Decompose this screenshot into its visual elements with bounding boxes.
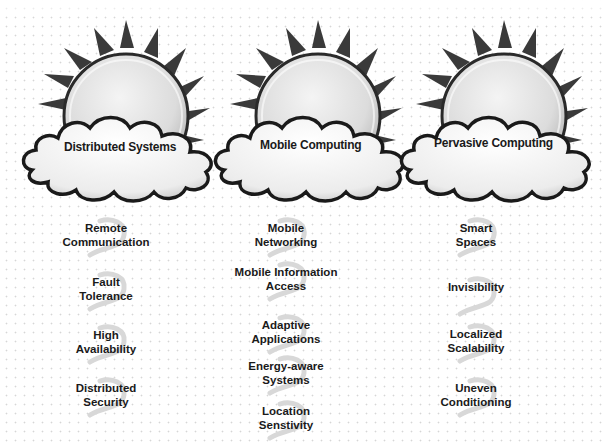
item-line-1: Energy-aware bbox=[206, 359, 366, 373]
item-energy-aware-systems: Energy-aware Systems bbox=[206, 359, 366, 387]
item-line-2: Conditioning bbox=[396, 395, 556, 409]
item-line-2: Access bbox=[206, 279, 366, 293]
item-line-1: Uneven bbox=[396, 381, 556, 395]
item-line-1: Adaptive bbox=[206, 318, 366, 332]
distributed-systems-weather-icon: Distributed Systems bbox=[18, 18, 228, 208]
item-line-1: Mobile Information bbox=[206, 265, 366, 279]
item-line-2: Tolerance bbox=[26, 289, 186, 303]
pervasive-computing-weather-icon: Pervasive Computing bbox=[396, 18, 606, 208]
item-localized-scalability: Localized Scalability bbox=[396, 327, 556, 355]
item-adaptive-applications: Adaptive Applications bbox=[206, 318, 366, 346]
item-line-2: Networking bbox=[206, 235, 366, 249]
item-high-availability: High Availability bbox=[26, 328, 186, 356]
item-line-1: Remote bbox=[26, 221, 186, 235]
item-line-2: Systems bbox=[206, 373, 366, 387]
item-line-2: Spaces bbox=[396, 235, 556, 249]
item-line-2: Communication bbox=[26, 235, 186, 249]
item-mobile-information-access: Mobile Information Access bbox=[206, 265, 366, 293]
item-line-1: Localized bbox=[396, 327, 556, 341]
item-fault-tolerance: Fault Tolerance bbox=[26, 275, 186, 303]
item-line-1: High bbox=[26, 328, 186, 342]
mobile-computing-weather-icon: Mobile Computing bbox=[210, 18, 420, 208]
item-mobile-networking: Mobile Networking bbox=[206, 221, 366, 249]
item-line-1: Location bbox=[206, 404, 366, 418]
top-fade bbox=[0, 0, 603, 18]
item-line-1: Mobile bbox=[206, 221, 366, 235]
item-smart-spaces: Smart Spaces bbox=[396, 221, 556, 249]
item-invisibility: Invisibility bbox=[396, 280, 556, 294]
sun-icon bbox=[210, 18, 420, 208]
item-line-2: Applications bbox=[206, 332, 366, 346]
column-title: Mobile Computing bbox=[260, 138, 361, 152]
item-line-1: Smart bbox=[396, 221, 556, 235]
item-line-2: Scalability bbox=[396, 341, 556, 355]
item-line-2: Security bbox=[26, 395, 186, 409]
item-line-1: Invisibility bbox=[396, 280, 556, 294]
sun-icon bbox=[396, 18, 606, 208]
column-title: Distributed Systems bbox=[64, 140, 176, 154]
item-line-2: Senstivity bbox=[206, 418, 366, 432]
item-distributed-security: Distributed Security bbox=[26, 381, 186, 409]
item-remote-communication: Remote Communication bbox=[26, 221, 186, 249]
sun-icon bbox=[18, 18, 228, 208]
item-line-1: Fault bbox=[26, 275, 186, 289]
item-line-2: Availability bbox=[26, 342, 186, 356]
item-location-senstivity: Location Senstivity bbox=[206, 404, 366, 432]
item-line-1: Distributed bbox=[26, 381, 186, 395]
item-uneven-conditioning: Uneven Conditioning bbox=[396, 381, 556, 409]
column-title: Pervasive Computing bbox=[434, 136, 553, 150]
